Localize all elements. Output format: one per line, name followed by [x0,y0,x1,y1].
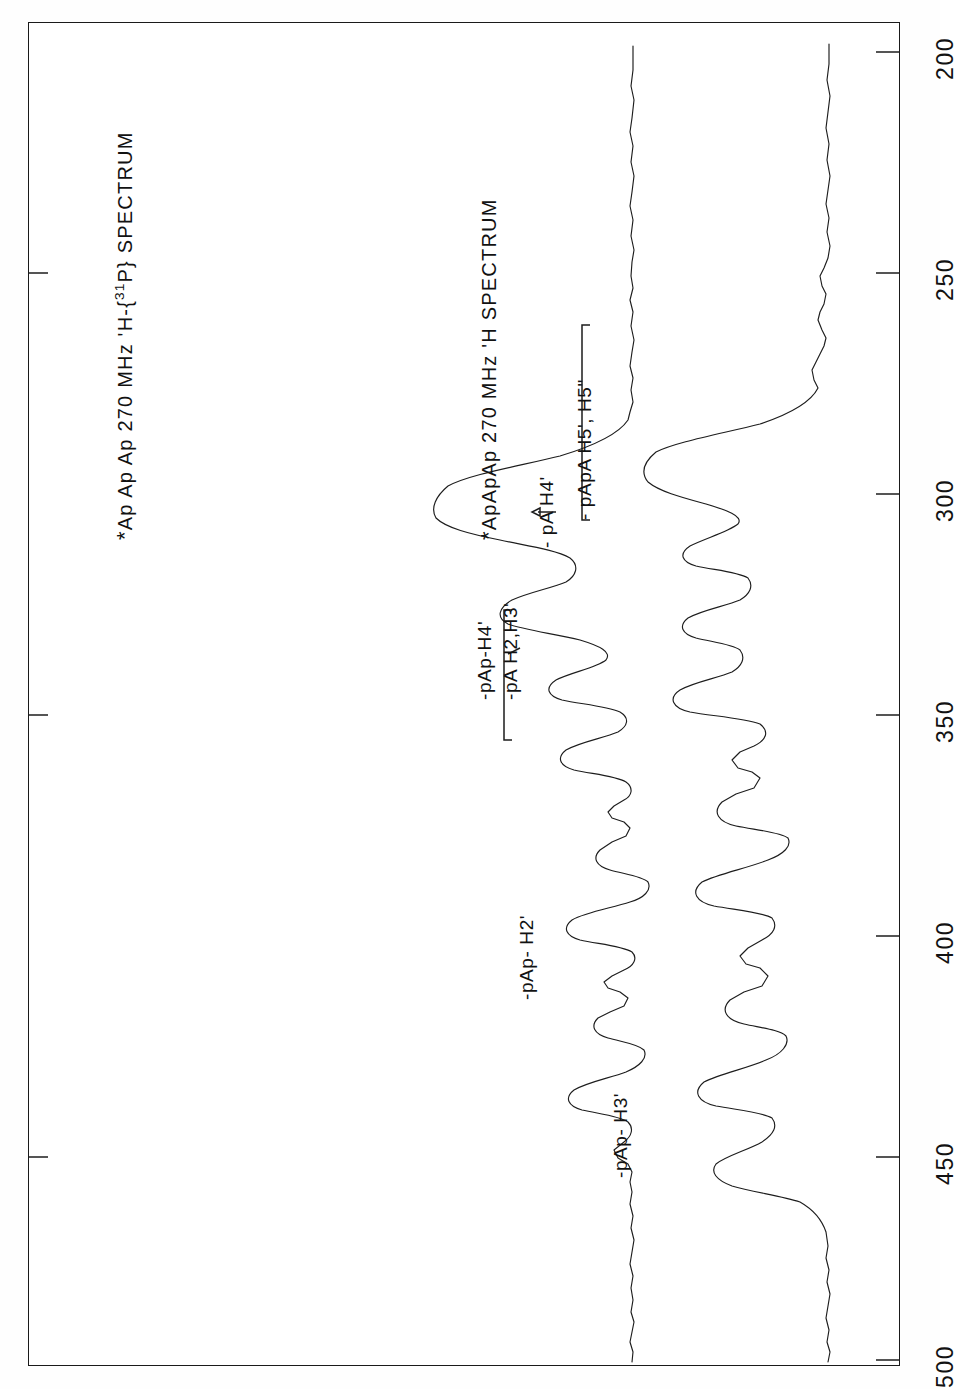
title-top-nucleus: 'H-{ [114,300,136,336]
title-bottom-part2: SPECTRUM [478,198,500,327]
axis-tick-label-350: 350 [932,700,958,743]
title-proton-coupled: *ApApAp 270 MHz 'H SPECTRUM [478,198,501,540]
axis-tick-label-400: 400 [932,921,958,964]
title-proton-decoupled: *Ap Ap Ap 270 MHz 'H-{31P} SPECTRUM [112,131,137,540]
annotation-label-papa-h5: - pApA H5', H5" [574,379,596,520]
annotation-label-pa-h2h3: -pA H2,H3' [500,603,522,700]
annotation-label-pap-h4: -pAp-H4' [474,621,496,700]
axis-tick-label-200: 200 [932,37,958,80]
axis-tick-label-450: 450 [932,1142,958,1185]
annotation-label-pa-h4: - pA H4' [536,476,558,548]
trace-proton-coupled [644,44,830,1362]
title-top-part2: P} SPECTRUM [114,131,136,282]
asterisk-marker-bottom: * [476,530,501,540]
title-top-superscript: 31 [112,282,127,300]
annotation-label-pap-h3: -pAp- H3' [610,1093,632,1178]
title-bottom-part1: ApApAp 270 MHz [478,348,500,531]
asterisk-marker-top: * [112,530,137,540]
axis-tick-label-500: 500 [932,1345,958,1388]
axis-tick-label-250: 250 [932,258,958,301]
title-top-part1: Ap Ap Ap 270 MHz [114,336,136,530]
axis-ticks [28,52,900,1360]
annotation-label-pap-h2: -pAp- H2' [516,915,538,1000]
axis-tick-label-300: 300 [932,479,958,522]
title-bottom-nucleus: 'H [478,327,500,348]
